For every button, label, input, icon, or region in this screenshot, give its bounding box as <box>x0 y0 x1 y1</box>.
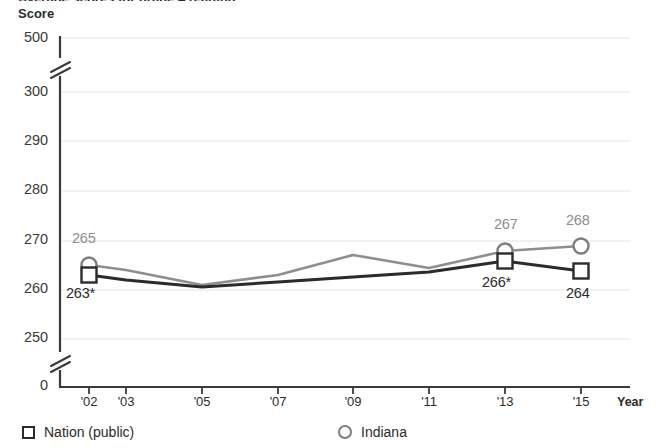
axis-lines <box>59 36 630 387</box>
axis-break-lower <box>51 352 70 372</box>
data-point-indiana-2015 <box>574 239 589 254</box>
legend-label-nation: Nation (public) <box>44 424 134 440</box>
legend-item-indiana[interactable]: Indiana <box>338 424 407 440</box>
data-point-nation-2002 <box>82 268 97 283</box>
value-label-nation-2013: 266* <box>482 274 511 290</box>
value-label-indiana-2002: 265 <box>72 230 96 246</box>
value-label-indiana-2015: 268 <box>566 212 590 228</box>
data-point-nation-2015 <box>574 264 589 279</box>
value-label-nation-2015: 264 <box>566 285 590 301</box>
gridlines <box>60 38 630 339</box>
value-label-nation-2002: 263* <box>66 285 95 301</box>
legend-item-nation[interactable]: Nation (public) <box>22 424 134 440</box>
chart-container: Average scores for grade 4 reading Score… <box>0 0 660 448</box>
plot-area <box>0 0 660 448</box>
data-point-nation-2013 <box>498 254 513 269</box>
chart-legend: Nation (public) Indiana <box>0 424 660 446</box>
legend-label-indiana: Indiana <box>361 424 407 440</box>
square-marker-icon <box>22 426 35 439</box>
axis-break-upper <box>51 58 70 78</box>
value-label-indiana-2013: 267 <box>494 216 518 232</box>
circle-marker-icon <box>338 425 352 439</box>
